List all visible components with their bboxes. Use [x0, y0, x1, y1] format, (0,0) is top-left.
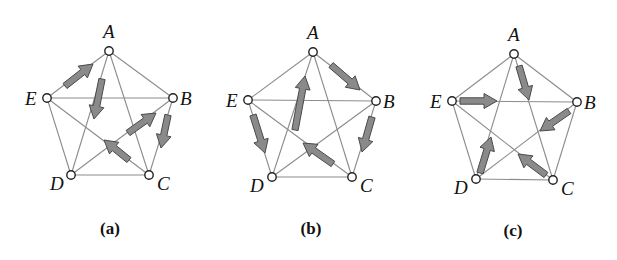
- node-c: [348, 173, 356, 181]
- node-e: [43, 94, 51, 102]
- node-c: [549, 176, 557, 184]
- edge-c-d: [476, 179, 553, 180]
- node-label-a: A: [305, 22, 319, 43]
- node-b: [372, 97, 380, 105]
- node-a: [510, 50, 518, 58]
- arrow-icon: [104, 140, 131, 163]
- node-label-e: E: [225, 90, 238, 111]
- node-label-b: B: [383, 91, 395, 112]
- arrow-icon: [518, 154, 548, 178]
- arrow-icon: [329, 63, 360, 90]
- panel-caption: (b): [301, 219, 322, 238]
- node-b: [573, 98, 581, 106]
- node-label-d: D: [249, 175, 264, 196]
- node-label-e: E: [429, 91, 442, 112]
- figure-canvas: ABCDE(a) ABCDE(b) ABCDE(c): [0, 0, 617, 260]
- node-e: [448, 97, 456, 105]
- node-a: [105, 47, 113, 55]
- node-label-a: A: [101, 21, 115, 42]
- arrow-icon: [516, 65, 533, 100]
- node-label-c: C: [360, 175, 373, 196]
- arrow-icon: [89, 78, 105, 119]
- arrow-icon: [250, 114, 268, 153]
- node-label-a: A: [506, 24, 520, 45]
- arrow-icon: [358, 116, 375, 152]
- arrow-icon: [303, 143, 335, 167]
- arrow-icon: [477, 137, 495, 174]
- node-label-b: B: [584, 92, 596, 113]
- panel-b: ABCDE(b): [225, 22, 395, 238]
- node-b: [169, 94, 177, 102]
- node-label-c: C: [157, 173, 170, 194]
- edge-a-d: [272, 52, 313, 177]
- arrow-icon: [292, 76, 310, 131]
- node-d: [472, 175, 480, 183]
- edge-e-a: [452, 54, 514, 101]
- panel-a: ABCDE(a): [24, 21, 192, 238]
- edge-b-e: [248, 100, 376, 101]
- panel-caption: (c): [504, 221, 523, 240]
- panel-c: ABCDE(c): [429, 24, 596, 240]
- node-d: [268, 173, 276, 181]
- node-d: [67, 171, 75, 179]
- node-label-e: E: [24, 88, 37, 109]
- edge-d-e: [452, 101, 476, 179]
- arrow-icon: [540, 108, 571, 131]
- node-label-c: C: [561, 178, 574, 199]
- panel-caption: (a): [100, 219, 120, 238]
- arrow-icon: [63, 64, 93, 89]
- node-e: [244, 96, 252, 104]
- edge-d-e: [47, 98, 71, 175]
- arrow-icon: [460, 94, 497, 109]
- node-label-b: B: [180, 88, 192, 109]
- node-label-d: D: [453, 177, 468, 198]
- node-c: [145, 171, 153, 179]
- node-label-d: D: [49, 173, 64, 194]
- node-a: [309, 48, 317, 56]
- edge-a-b: [109, 51, 173, 98]
